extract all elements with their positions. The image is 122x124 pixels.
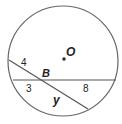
segment-label-y: y [52,93,61,107]
segment-label-3: 3 [26,83,32,94]
circle-diagram: O B 4 y 3 8 [0,0,122,124]
intersection-label: B [42,67,50,79]
segment-label-8: 8 [83,83,89,94]
segment-label-4: 4 [21,57,27,68]
center-label: O [66,45,76,59]
